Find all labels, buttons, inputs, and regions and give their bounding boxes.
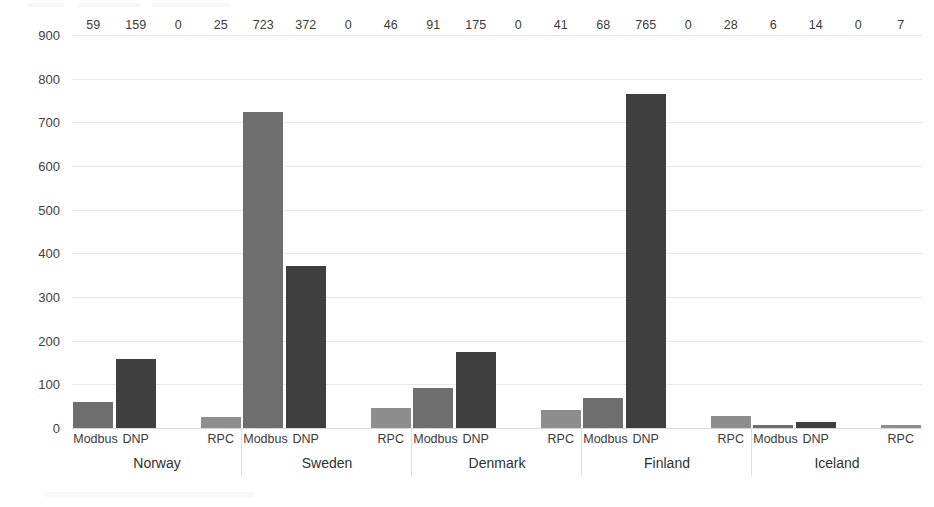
bar-norway-dnp[interactable]: 159 xyxy=(116,359,156,428)
bar-value-label: 0 xyxy=(855,19,862,32)
bars: 91175041 xyxy=(412,35,582,428)
x-label-rpc: RPC xyxy=(371,430,411,448)
y-axis-tick-label: 800 xyxy=(8,72,60,85)
bar-group-sweden: 723372046 xyxy=(242,35,412,428)
bar-slot: 0 xyxy=(328,35,368,428)
bar-slot: 372 xyxy=(286,35,326,428)
y-axis-tick-label: 500 xyxy=(8,203,60,216)
x-label-dnp: DNP xyxy=(456,430,496,448)
x-label-modbus: Modbus xyxy=(583,430,623,448)
bars: 723372046 xyxy=(242,35,412,428)
bar-chart: 0100200300400500600700800900 59159025723… xyxy=(0,0,934,507)
bar-slot: 159 xyxy=(116,35,156,428)
x-label-rpc: RPC xyxy=(201,430,241,448)
bar-iceland-rpc[interactable]: 7 xyxy=(881,425,921,428)
x-label-modbus: Modbus xyxy=(413,430,453,448)
bar-slot: 0 xyxy=(158,35,198,428)
bar-norway-modbus[interactable]: 59 xyxy=(73,402,113,428)
bar-value-label: 14 xyxy=(809,19,823,32)
x-group-norway: ModbusDNP RPC xyxy=(72,430,242,454)
bar-finland-modbus[interactable]: 68 xyxy=(583,398,623,428)
bar-slot: 0 xyxy=(498,35,538,428)
bar-finland-rpc[interactable]: 28 xyxy=(711,416,751,428)
bar-slot: 68 xyxy=(583,35,623,428)
bar-value-label: 372 xyxy=(295,19,316,32)
y-axis-tick-label: 700 xyxy=(8,116,60,129)
bar-iceland-dnp[interactable]: 14 xyxy=(796,422,836,428)
y-axis-tick-label: 100 xyxy=(8,378,60,391)
bar-value-label: 0 xyxy=(685,19,692,32)
bar-slot: 0 xyxy=(668,35,708,428)
bar-slot: 28 xyxy=(711,35,751,428)
bar-value-label: 7 xyxy=(897,19,904,32)
x-group-iceland: ModbusDNP RPC xyxy=(752,430,922,454)
bar-slot: 41 xyxy=(541,35,581,428)
bar-slot: 7 xyxy=(881,35,921,428)
plot-area: 0100200300400500600700800900 59159025723… xyxy=(72,35,922,428)
bar-slot: 14 xyxy=(796,35,836,428)
group-name-sweden: Sweden xyxy=(242,452,412,478)
y-axis-tick-label: 0 xyxy=(8,422,60,435)
group-name-norway: Norway xyxy=(72,452,242,478)
bar-value-label: 0 xyxy=(345,19,352,32)
x-label-rpc: RPC xyxy=(541,430,581,448)
bar-sweden-dnp[interactable]: 372 xyxy=(286,266,326,428)
x-axis-group-labels: NorwaySwedenDenmarkFinlandIceland xyxy=(72,452,922,478)
scan-artifact xyxy=(28,3,64,7)
y-axis-tick-label: 400 xyxy=(8,247,60,260)
group-name-finland: Finland xyxy=(582,452,752,478)
group-name-iceland: Iceland xyxy=(752,452,922,478)
bars: 59159025 xyxy=(72,35,242,428)
bar-value-label: 723 xyxy=(253,19,274,32)
x-group-sweden: ModbusDNP RPC xyxy=(242,430,412,454)
bar-value-label: 46 xyxy=(384,19,398,32)
bar-group-finland: 68765028 xyxy=(582,35,752,428)
x-label-modbus: Modbus xyxy=(243,430,283,448)
x-label-rpc: RPC xyxy=(881,430,921,448)
bar-denmark-dnp[interactable]: 175 xyxy=(456,352,496,428)
bar-slot: 0 xyxy=(838,35,878,428)
bar-value-label: 0 xyxy=(175,19,182,32)
x-label-dnp: DNP xyxy=(116,430,156,448)
bar-value-label: 175 xyxy=(465,19,486,32)
bar-sweden-modbus[interactable]: 723 xyxy=(243,112,283,428)
bar-slot: 765 xyxy=(626,35,666,428)
bar-slot: 59 xyxy=(73,35,113,428)
bar-iceland-modbus[interactable]: 6 xyxy=(753,425,793,428)
bar-value-label: 25 xyxy=(214,19,228,32)
x-label-modbus: Modbus xyxy=(753,430,793,448)
bar-value-label: 765 xyxy=(635,19,656,32)
bar-denmark-rpc[interactable]: 41 xyxy=(541,410,581,428)
x-group-finland: ModbusDNP RPC xyxy=(582,430,752,454)
bar-value-label: 91 xyxy=(426,19,440,32)
bar-slot: 91 xyxy=(413,35,453,428)
y-axis-tick-label: 600 xyxy=(8,160,60,173)
bar-value-label: 41 xyxy=(554,19,568,32)
bar-finland-dnp[interactable]: 765 xyxy=(626,94,666,428)
bar-sweden-rpc[interactable]: 46 xyxy=(371,408,411,428)
x-group-denmark: ModbusDNP RPC xyxy=(412,430,582,454)
bar-value-label: 159 xyxy=(125,19,146,32)
bar-group-norway: 59159025 xyxy=(72,35,242,428)
bars: 68765028 xyxy=(582,35,752,428)
bar-slot: 723 xyxy=(243,35,283,428)
bar-slot: 25 xyxy=(201,35,241,428)
group-name-denmark: Denmark xyxy=(412,452,582,478)
bar-norway-rpc[interactable]: 25 xyxy=(201,417,241,428)
bar-value-label: 59 xyxy=(86,19,100,32)
y-axis-tick-label: 300 xyxy=(8,291,60,304)
bars: 61407 xyxy=(752,35,922,428)
x-label-rpc: RPC xyxy=(711,430,751,448)
bar-denmark-modbus[interactable]: 91 xyxy=(413,388,453,428)
x-label-dnp: DNP xyxy=(796,430,836,448)
bar-slot: 175 xyxy=(456,35,496,428)
bar-value-label: 0 xyxy=(515,19,522,32)
bar-groups: 59159025723372046911750416876502861407 xyxy=(72,35,922,428)
bar-value-label: 6 xyxy=(770,19,777,32)
scan-artifact xyxy=(152,3,230,7)
x-axis-series-labels: ModbusDNP RPCModbusDNP RPCModbusDNP RPCM… xyxy=(72,430,922,454)
x-label-dnp: DNP xyxy=(286,430,326,448)
bar-slot: 46 xyxy=(371,35,411,428)
bar-slot: 6 xyxy=(753,35,793,428)
y-axis-tick-label: 900 xyxy=(8,29,60,42)
